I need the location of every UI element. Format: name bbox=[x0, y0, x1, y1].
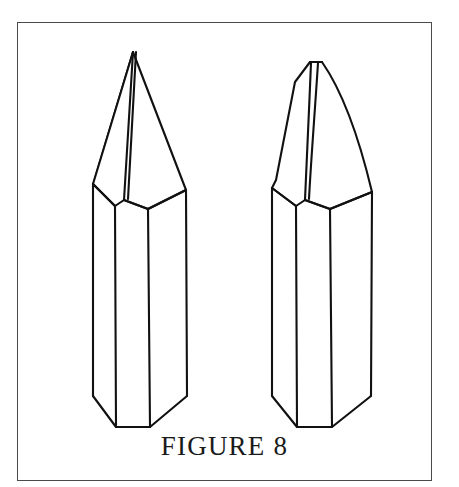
figure-caption: FIGURE 8 bbox=[17, 432, 432, 462]
left-crystal-base-outline bbox=[93, 396, 187, 427]
crystal-line-drawing bbox=[0, 0, 459, 487]
right-crystal-prism-edge-outer-right bbox=[371, 192, 372, 396]
left-crystal-prism-edge-inner-right bbox=[148, 209, 150, 427]
left-crystal bbox=[93, 52, 187, 427]
right-crystal-base-outline bbox=[272, 396, 371, 427]
left-crystal-prism-edge-inner-left bbox=[115, 206, 116, 427]
right-crystal bbox=[272, 62, 372, 427]
figure-root: FIGURE 8 bbox=[0, 0, 459, 487]
left-crystal-prism-edge-outer-right bbox=[186, 190, 187, 396]
left-crystal-pyramid-outline bbox=[93, 52, 186, 209]
right-crystal-pyramid-outline bbox=[272, 62, 372, 209]
right-crystal-prism-edge-inner-left bbox=[296, 206, 297, 427]
right-crystal-prism-edge-inner-right bbox=[330, 209, 332, 427]
